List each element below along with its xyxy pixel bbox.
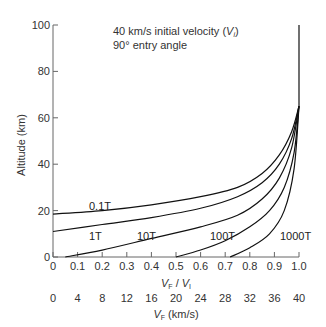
- x-axis-label: VF / VI: [161, 277, 191, 290]
- x-tick-label: 0.3: [119, 260, 134, 272]
- x-axis-secondary-label: VF (km/s): [153, 308, 198, 321]
- x-tick-label: 0.7: [218, 260, 233, 272]
- x-tick-label: 0.2: [95, 260, 110, 272]
- x-tick-label: 1.0: [291, 260, 306, 272]
- x-axis-secondary-ticks: 0481216202428323640: [50, 292, 305, 304]
- y-tick-label: 60: [38, 112, 50, 124]
- y-tick-label: 20: [38, 205, 50, 217]
- altitude-velocity-chart: 020406080100 00.10.20.30.40.50.60.70.80.…: [0, 0, 326, 327]
- chart-subtitle: 90° entry angle: [113, 39, 187, 51]
- y-axis-ticks: 020406080100: [32, 19, 58, 263]
- x2-tick-label: 20: [170, 292, 182, 304]
- x2-tick-label: 36: [268, 292, 280, 304]
- x2-tick-label: 12: [121, 292, 133, 304]
- x-tick-label: 0: [50, 260, 56, 272]
- x2-tick-label: 40: [293, 292, 305, 304]
- chart-title: 40 km/s initial velocity (Vi): [113, 25, 239, 38]
- axes: [53, 25, 299, 257]
- y-tick-label: 80: [38, 65, 50, 77]
- x2-tick-label: 28: [219, 292, 231, 304]
- series-label-1t: 1T: [89, 230, 102, 242]
- series-label-1000t: 1000T: [280, 230, 311, 242]
- series-label-0.1t: 0.1T: [89, 200, 111, 212]
- x-tick-label: 0.6: [193, 260, 208, 272]
- x-tick-label: 0.9: [267, 260, 282, 272]
- x-tick-label: 0.1: [70, 260, 85, 272]
- x-tick-label: 0.5: [168, 260, 183, 272]
- y-tick-label: 100: [32, 19, 50, 31]
- x-tick-label: 0.8: [242, 260, 257, 272]
- x-tick-label: 0.4: [144, 260, 159, 272]
- x2-tick-label: 24: [194, 292, 206, 304]
- y-axis-label: Altitude (km): [15, 114, 27, 176]
- x2-tick-label: 0: [50, 292, 56, 304]
- curve-01t: [53, 106, 299, 214]
- x2-tick-label: 16: [145, 292, 157, 304]
- curves: [53, 25, 299, 257]
- x2-tick-label: 4: [75, 292, 81, 304]
- x2-tick-label: 32: [244, 292, 256, 304]
- x-axis-ticks: 00.10.20.30.40.50.60.70.80.91.0: [50, 252, 307, 272]
- series-label-10t: 10T: [137, 230, 156, 242]
- series-label-100t: 100T: [210, 230, 235, 242]
- curve-1t: [53, 106, 299, 231]
- x2-tick-label: 8: [99, 292, 105, 304]
- y-tick-label: 40: [38, 158, 50, 170]
